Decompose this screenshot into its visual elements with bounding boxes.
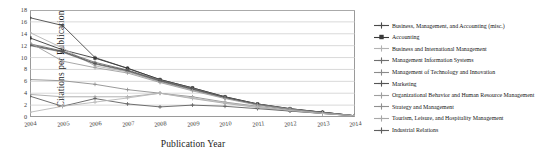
legend-item[interactable]: Management Information Systems bbox=[374, 55, 560, 67]
data-point bbox=[61, 59, 65, 63]
legend-label: Management of Technology and Innovation bbox=[392, 69, 495, 75]
plot-area: 024681012141618 200420052006200720082009… bbox=[30, 10, 355, 117]
legend-label: Strategy and Management bbox=[392, 104, 454, 110]
y-tick-label: 4 bbox=[24, 90, 27, 96]
legend-marker-icon bbox=[374, 44, 389, 53]
legend-marker-icon bbox=[374, 33, 389, 42]
legend-marker-icon bbox=[374, 21, 389, 30]
legend-label: Organizational Behavior and Human Resour… bbox=[392, 92, 534, 98]
legend-item[interactable]: Marketing bbox=[374, 78, 560, 90]
legend-marker-icon bbox=[374, 114, 389, 123]
x-tick-label: 2013 bbox=[316, 120, 329, 128]
y-tick-label: 12 bbox=[21, 43, 27, 49]
y-tick-label: 10 bbox=[21, 54, 27, 60]
data-point bbox=[93, 57, 96, 60]
data-point bbox=[158, 91, 162, 95]
y-tick-label: 16 bbox=[21, 19, 27, 25]
legend-label: Business, Management, and Accounting (mi… bbox=[392, 23, 505, 29]
legend-label: Accounting bbox=[392, 34, 419, 40]
data-point bbox=[93, 100, 97, 104]
legend-marker-icon bbox=[374, 56, 389, 65]
legend-marker-icon bbox=[374, 91, 389, 100]
grid-and-series bbox=[30, 10, 355, 117]
legend-label: Industrial Relations bbox=[392, 127, 438, 133]
legend-marker-icon bbox=[374, 79, 389, 88]
data-point bbox=[30, 110, 32, 114]
legend-label: Management Information Systems bbox=[392, 57, 473, 63]
legend-item[interactable]: Industrial Relations bbox=[374, 124, 560, 136]
legend-item[interactable]: Business, Management, and Accounting (mi… bbox=[374, 20, 560, 32]
data-point bbox=[158, 105, 162, 109]
legend-item[interactable]: Organizational Behavior and Human Resour… bbox=[374, 90, 560, 102]
data-point bbox=[30, 16, 32, 20]
y-tick-label: 6 bbox=[24, 78, 27, 84]
legend-item[interactable]: Management of Technology and Innovation bbox=[374, 66, 560, 78]
data-point bbox=[126, 88, 130, 92]
data-point bbox=[61, 95, 65, 99]
x-tick-label: 2014 bbox=[349, 120, 362, 128]
data-point bbox=[30, 36, 32, 39]
data-point bbox=[93, 82, 97, 86]
legend-marker-icon bbox=[374, 102, 389, 111]
y-tick-label: 8 bbox=[24, 66, 27, 72]
legend-label: Marketing bbox=[392, 81, 417, 87]
x-tick-label: 2007 bbox=[121, 120, 134, 128]
data-point bbox=[223, 101, 227, 105]
x-axis-title: Publication Year bbox=[28, 139, 358, 149]
data-point bbox=[61, 79, 65, 83]
data-point bbox=[30, 78, 32, 82]
y-tick-label: 0 bbox=[24, 114, 27, 120]
y-tick-label: 18 bbox=[21, 7, 27, 13]
x-tick-label: 2006 bbox=[89, 120, 102, 128]
y-tick-label: 2 bbox=[24, 102, 27, 108]
y-tick-label: 14 bbox=[21, 31, 27, 37]
chart-legend: Business, Management, and Accounting (mi… bbox=[374, 20, 560, 136]
x-tick-label: 2010 bbox=[219, 120, 232, 128]
legend-label: Business and International Management bbox=[392, 46, 487, 52]
legend-marker-icon bbox=[374, 126, 389, 135]
x-tick-label: 2005 bbox=[56, 120, 69, 128]
legend-item[interactable]: Tourism, Leisure, and Hospitality Manage… bbox=[374, 113, 560, 125]
legend-item[interactable]: Accounting bbox=[374, 32, 560, 44]
chart-container: Citations per Publication 02468101214161… bbox=[0, 0, 560, 158]
x-tick-label: 2004 bbox=[24, 120, 37, 128]
legend-item[interactable]: Business and International Management bbox=[374, 43, 560, 55]
x-tick-label: 2008 bbox=[154, 120, 167, 128]
series-line bbox=[30, 18, 355, 116]
legend-item[interactable]: Strategy and Management bbox=[374, 101, 560, 113]
legend-marker-icon bbox=[374, 68, 389, 77]
data-point bbox=[93, 97, 97, 101]
x-tick-label: 2011 bbox=[251, 120, 264, 128]
legend-label: Tourism, Leisure, and Hospitality Manage… bbox=[392, 115, 503, 121]
x-tick-label: 2009 bbox=[186, 120, 199, 128]
x-tick-label: 2012 bbox=[284, 120, 297, 128]
data-point bbox=[191, 103, 195, 107]
